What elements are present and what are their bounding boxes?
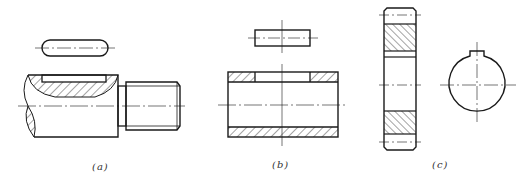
label-c: (c) [432,159,448,170]
hub-hatch-top-left [228,72,255,82]
gear-hatch-bottom [384,111,416,134]
hub-hatch-top-right [310,72,338,82]
gear-hatch-top [384,24,416,51]
shaft-break-bottom [26,106,35,137]
technical-drawing [0,0,532,185]
shaft-break-top [24,75,28,106]
panel-b [218,20,348,146]
label-b: (b) [272,159,289,170]
label-a: (a) [92,161,109,172]
panel-a [18,40,185,137]
hub-hatch-bottom [228,127,338,137]
panel-c [379,8,516,150]
keyway-slot [42,75,106,82]
